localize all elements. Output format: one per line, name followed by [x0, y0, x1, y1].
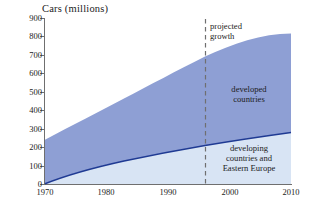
x-axis-line [44, 184, 292, 185]
annotation-developed-countries: developed countries [212, 84, 286, 104]
x-tick-label-2000: 2000 [210, 188, 250, 197]
y-tick-label-800: 800 [16, 32, 42, 41]
y-tick-label-400: 400 [16, 106, 42, 115]
y-tick-label-600: 600 [16, 69, 42, 78]
y-tick-label-100: 100 [16, 162, 42, 171]
annotation-developing-countries: developing countries and Eastern Europe [206, 143, 292, 173]
y-tick-label-700: 700 [16, 51, 42, 60]
x-tick-label-1970: 1970 [25, 188, 65, 197]
y-tick-label-200: 200 [16, 143, 42, 152]
y-axis-line [44, 18, 45, 185]
y-tick-label-300: 300 [16, 125, 42, 134]
chart-page: Cars (millions) 900 800 700 600 500 400 … [0, 0, 314, 208]
x-tick-label-2010: 2010 [271, 188, 311, 197]
annotation-projected-growth: projected growth [210, 21, 242, 41]
y-tick-label-900: 900 [16, 14, 42, 23]
x-tick-label-1980: 1980 [86, 188, 126, 197]
x-tick-label-1990: 1990 [148, 188, 188, 197]
page-title: Cars (millions) [42, 3, 108, 14]
y-tick-label-500: 500 [16, 88, 42, 97]
